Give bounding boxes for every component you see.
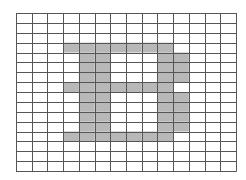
diagram-canvas — [0, 0, 246, 180]
filled-cell — [173, 112, 189, 122]
filled-cell — [157, 122, 173, 132]
filled-cell — [95, 82, 111, 92]
filled-cell — [95, 122, 111, 132]
filled-cell — [79, 82, 95, 92]
filled-cell — [110, 43, 126, 53]
filled-cell — [142, 82, 158, 92]
filled-cell — [79, 72, 95, 82]
grid-svg — [16, 13, 237, 172]
filled-cell — [157, 43, 173, 53]
filled-cell — [157, 62, 173, 72]
filled-cell — [95, 62, 111, 72]
filled-cell — [95, 102, 111, 112]
filled-cell — [157, 72, 173, 82]
filled-cell — [95, 92, 111, 102]
filled-cell — [157, 102, 173, 112]
filled-cell — [173, 102, 189, 112]
filled-cell — [126, 82, 142, 92]
filled-cell — [95, 72, 111, 82]
filled-cell — [63, 43, 79, 53]
filled-cell — [173, 62, 189, 72]
filled-cell — [173, 72, 189, 82]
pixel-grid-letter-b — [16, 13, 236, 171]
filled-cell — [95, 43, 111, 53]
filled-cell — [79, 112, 95, 122]
filled-cell — [79, 43, 95, 53]
filled-cell — [173, 122, 189, 132]
filled-cell — [173, 92, 189, 102]
filled-cell — [126, 43, 142, 53]
filled-cell — [157, 112, 173, 122]
filled-cell — [79, 122, 95, 132]
filled-cell — [63, 82, 79, 92]
filled-cell — [110, 82, 126, 92]
filled-cell — [142, 43, 158, 53]
filled-cell — [95, 112, 111, 122]
filled-cell — [157, 92, 173, 102]
filled-cell — [79, 92, 95, 102]
filled-cell — [79, 102, 95, 112]
filled-cell — [79, 62, 95, 72]
filled-cell — [157, 82, 173, 92]
